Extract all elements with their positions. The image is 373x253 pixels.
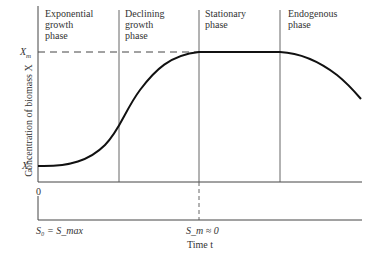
phase-label-declining: Declining growth phase xyxy=(125,8,164,41)
x-axis-label: Time t xyxy=(187,239,213,250)
phase-label-line: growth xyxy=(125,19,164,30)
y-axis-label: Concentration of biomass X xyxy=(23,41,34,201)
phase-label-line: phase xyxy=(288,19,337,30)
phase-label-stationary: Stationary phase xyxy=(205,8,246,30)
substrate-stationary-label: S_m ≈ 0 xyxy=(186,225,219,236)
phase-label-line: Declining xyxy=(125,8,164,19)
phase-label-line: phase xyxy=(205,19,246,30)
substrate-start-label: S₀ = S_max xyxy=(36,225,83,236)
phase-label-exponential: Exponential growth phase xyxy=(45,8,93,41)
biomass-curve xyxy=(38,52,361,166)
phase-label-line: Exponential xyxy=(45,8,93,19)
phase-label-endogenous: Endogenous phase xyxy=(288,8,337,30)
phase-label-line: Stationary xyxy=(205,8,246,19)
phase-label-line: phase xyxy=(125,30,164,41)
phase-label-line: Endogenous xyxy=(288,8,337,19)
phase-label-line: phase xyxy=(45,30,93,41)
phase-label-line: growth xyxy=(45,19,93,30)
origin-label: 0 xyxy=(36,186,41,197)
